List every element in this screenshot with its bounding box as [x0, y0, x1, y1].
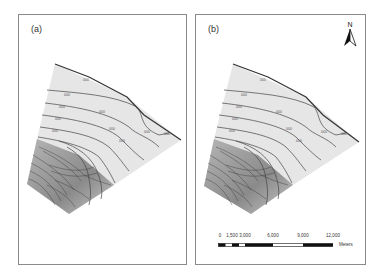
- svg-text:000: 000: [52, 129, 58, 133]
- scale-tick: 12,000: [326, 233, 340, 238]
- contour-map-b: 000000000 000000000 000000000 000: [196, 15, 367, 266]
- scale-tick: 0: [219, 233, 222, 238]
- svg-text:000: 000: [59, 105, 65, 109]
- svg-text:000: 000: [232, 117, 238, 121]
- map-panel-a: (a): [18, 14, 187, 265]
- contour-map-a: 000000000 000000000 000000000 000: [19, 15, 188, 266]
- svg-text:000: 000: [164, 132, 170, 136]
- scale-tick: 9,000: [297, 233, 308, 238]
- svg-text:000: 000: [109, 127, 115, 131]
- svg-text:000: 000: [229, 129, 235, 133]
- svg-text:000: 000: [296, 139, 302, 143]
- svg-text:000: 000: [286, 127, 292, 131]
- svg-text:000: 000: [276, 110, 282, 114]
- scale-tick: 3,000: [239, 233, 250, 238]
- svg-text:000: 000: [55, 117, 61, 121]
- svg-text:000: 000: [99, 110, 105, 114]
- svg-text:000: 000: [260, 78, 266, 82]
- scale-unit: Meters: [339, 242, 353, 247]
- svg-text:000: 000: [321, 130, 327, 134]
- scale-bar-graphic: [218, 243, 338, 247]
- scale-tick: 6,000: [267, 233, 278, 238]
- svg-text:000: 000: [341, 132, 347, 136]
- svg-text:000: 000: [236, 105, 242, 109]
- svg-text:000: 000: [241, 93, 247, 97]
- svg-text:000: 000: [83, 78, 89, 82]
- scale-tick: 1,500: [226, 233, 237, 238]
- map-panel-b: (b) N: [195, 14, 366, 265]
- svg-text:000: 000: [144, 130, 150, 134]
- svg-text:000: 000: [64, 93, 70, 97]
- scale-bar: 0 1,500 3,000 6,000 9,000 12,000 Meters: [218, 233, 368, 241]
- svg-text:000: 000: [119, 139, 125, 143]
